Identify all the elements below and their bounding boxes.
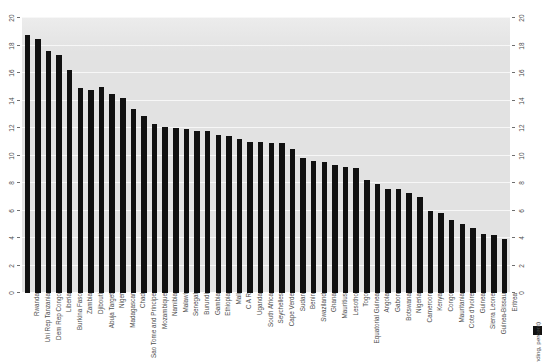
y-axis-left: 02468101214161820 <box>0 18 20 293</box>
bar <box>173 128 179 293</box>
y-axis-tick-label: 20 <box>516 12 528 24</box>
x-axis-category-label: Ghana <box>328 293 339 312</box>
bar <box>269 143 275 293</box>
x-axis-category-label: Mozambique <box>159 293 170 329</box>
bar <box>216 135 222 293</box>
x-axis-category-label: Namibia <box>169 293 180 316</box>
bar <box>491 235 497 293</box>
bar <box>502 239 508 293</box>
x-axis-category-label: Congo <box>445 293 456 312</box>
x-axis-category-label: Burundi <box>201 293 212 315</box>
bar <box>417 197 423 293</box>
bar <box>247 142 253 293</box>
bar <box>88 90 94 294</box>
bar-series <box>22 18 510 293</box>
bar <box>290 149 296 293</box>
y-axis-tick-label: 2 <box>6 260 18 272</box>
y-axis-tick: 18 <box>512 40 534 52</box>
bar <box>332 165 338 293</box>
bar <box>194 131 200 293</box>
x-axis-category-label: Niger <box>116 293 127 308</box>
bar <box>162 127 168 293</box>
x-axis-category-label: Liberia <box>63 293 74 312</box>
bar <box>481 234 487 293</box>
bar <box>311 161 317 293</box>
y-axis-tick: 8 <box>0 177 20 189</box>
bar <box>438 213 444 293</box>
bar-chart: 02468101214161820 02468101214161820 Rwan… <box>0 0 556 362</box>
x-axis-category-label: Ethiopia <box>222 293 233 316</box>
bar <box>131 109 137 293</box>
bar <box>67 70 73 293</box>
x-axis-category-labels: RwandaUni Rep TanzaniaDem Rep CongoLiber… <box>22 293 510 362</box>
bar <box>343 167 349 294</box>
x-axis-category-label: Cote d'Ivoire <box>466 293 477 328</box>
chart-legend: Public health spending (share of governm… <box>524 196 552 356</box>
x-axis-category-label: Sudan <box>297 293 308 311</box>
x-axis-category-label: Mauritius <box>339 293 350 319</box>
y-axis-tick: 0 <box>0 287 20 299</box>
y-axis-tick-mark <box>512 210 515 211</box>
x-axis-category-label: C A R <box>243 293 254 309</box>
x-axis-category-label: Zambia <box>84 293 95 314</box>
y-axis-tick-label: 12 <box>516 122 528 134</box>
bar <box>375 184 381 293</box>
x-axis-category-label: Djibouti <box>95 293 106 314</box>
y-axis-tick: 2 <box>0 260 20 272</box>
x-axis-category-label: Uganda <box>254 293 265 315</box>
plot-area <box>22 18 510 293</box>
y-axis-tick: 20 <box>512 12 534 24</box>
bar <box>460 224 466 293</box>
x-axis-category-label: Benin <box>307 293 318 309</box>
x-axis-category-label: Mauritania <box>456 293 467 322</box>
bar <box>184 129 190 293</box>
x-axis-category-label: Rwanda <box>31 293 42 316</box>
y-axis-tick-mark <box>512 17 515 18</box>
x-axis-category-label: Sierra Leone <box>487 293 498 329</box>
x-axis-category-label: Botswana <box>403 293 414 321</box>
bar <box>428 211 434 294</box>
x-axis-category-label: Sao Tome and Principe <box>148 293 159 358</box>
y-axis-tick-label: 20 <box>6 12 18 24</box>
bar <box>205 131 211 293</box>
bar <box>141 116 147 293</box>
bar <box>258 142 264 293</box>
bar <box>385 189 391 294</box>
y-axis-tick-mark <box>512 265 515 266</box>
bar <box>300 158 306 293</box>
y-axis-tick: 16 <box>0 67 20 79</box>
bar <box>226 136 232 293</box>
bar <box>46 51 52 293</box>
y-axis-tick-label: 14 <box>516 95 528 107</box>
y-axis-tick-label: 18 <box>6 40 18 52</box>
x-axis-category-label: Seychelles <box>275 293 286 323</box>
y-axis-tick-label: 16 <box>516 67 528 79</box>
bar <box>152 124 158 293</box>
y-axis-tick-mark <box>512 155 515 156</box>
y-axis-tick-label: 12 <box>6 122 18 134</box>
y-axis-tick: 6 <box>0 205 20 217</box>
x-axis-category-label: Gambia <box>212 293 223 315</box>
y-axis-tick-label: 0 <box>6 287 18 299</box>
bar <box>78 88 84 293</box>
y-axis-tick-label: 14 <box>6 95 18 107</box>
legend-label: Public health spending (share of governm… <box>532 322 543 362</box>
x-axis-category-label: Nigeria <box>413 293 424 313</box>
bar <box>237 139 243 293</box>
y-axis-tick: 4 <box>0 232 20 244</box>
y-axis-tick-mark <box>512 127 515 128</box>
y-axis-tick: 14 <box>0 95 20 107</box>
x-axis-category-label: Lesotho <box>350 293 361 315</box>
x-axis-category-label: Dem Rep Congo <box>53 293 64 340</box>
bar <box>279 143 285 293</box>
bar <box>322 162 328 293</box>
y-axis-tick: 16 <box>512 67 534 79</box>
bar <box>353 168 359 293</box>
x-axis-category-label: Angola <box>381 293 392 313</box>
bar <box>35 39 41 293</box>
y-axis-tick: 12 <box>0 122 20 134</box>
bar <box>364 180 370 293</box>
y-axis-tick: 10 <box>0 150 20 162</box>
y-axis-tick: 12 <box>512 122 534 134</box>
y-axis-tick-mark <box>512 237 515 238</box>
